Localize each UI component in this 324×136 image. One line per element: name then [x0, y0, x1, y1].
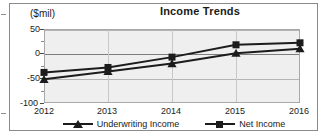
gridline-2014 [172, 30, 173, 102]
square-marker-icon [205, 119, 235, 129]
y-tick-label-0: 0 [10, 48, 40, 58]
x-tick-label-2014: 2014 [151, 106, 191, 116]
chart-legend: Underwriting Income Net Income [44, 117, 304, 131]
chart-title: Income Trends [120, 5, 280, 17]
gridline-2015 [236, 30, 237, 102]
y-tick-label-minus50: -50 [10, 73, 40, 83]
x-tick-label-2013: 2013 [87, 106, 127, 116]
income-trends-chart-card: Income Trends ($mil) 50 0 -50 -100 2012 … [0, 0, 324, 136]
plot-area [44, 29, 300, 103]
left-edge-mark-bottom [1, 113, 6, 114]
x-tick-label-2016: 2016 [279, 106, 319, 116]
legend-item-net-income[interactable]: Net Income [205, 119, 285, 129]
x-tick-label-2015: 2015 [215, 106, 255, 116]
y-tick-mark-minus100 [40, 103, 44, 104]
triangle-marker-icon [63, 119, 93, 129]
y-tick-label-50: 50 [10, 24, 40, 34]
gridline-2013 [108, 30, 109, 102]
legend-item-underwriting-income[interactable]: Underwriting Income [63, 119, 180, 129]
legend-label-net-income: Net Income [239, 119, 285, 129]
y-axis-unit-label: ($mil) [30, 8, 55, 19]
x-tick-label-2012: 2012 [24, 106, 64, 116]
left-edge-mark-top [1, 14, 6, 15]
legend-label-underwriting-income: Underwriting Income [97, 119, 180, 129]
